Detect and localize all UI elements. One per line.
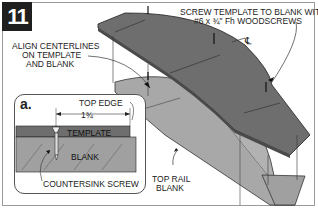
blank-label: BLANK (71, 153, 99, 162)
align-note-line3: AND BLANK (26, 60, 74, 69)
template-label: TEMPLATE (67, 129, 111, 138)
screw-note-line2: #6 x ¾" Fh WOODSCREWS (194, 17, 302, 26)
dimension-label: 1¾ (81, 111, 93, 120)
countersink-label: COUNTERSINK SCREW (43, 180, 139, 189)
centerline-symbol: ℄ (245, 36, 251, 45)
step-number-badge: 11 (2, 2, 32, 31)
top-rail-line2: BLANK (156, 184, 184, 193)
top-edge-label: TOP EDGE (79, 99, 123, 108)
detail-inset-a: a. TOP EDGE 1¾ TEMPLATE BLANK COUNTERSIN… (14, 94, 146, 194)
